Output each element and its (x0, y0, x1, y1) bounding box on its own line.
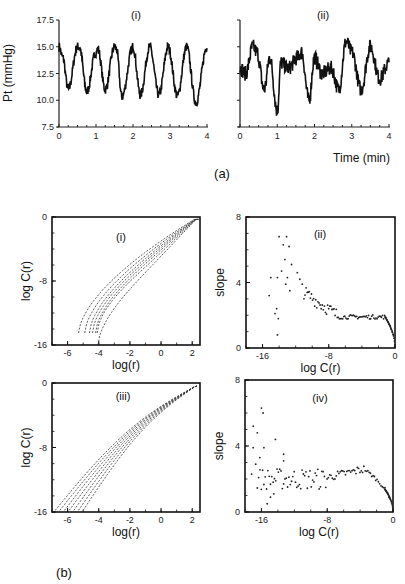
slope-point (314, 472, 316, 474)
correlation-curve (79, 386, 197, 510)
slope-point (308, 476, 310, 478)
x-axis-label: Time (min) (333, 151, 390, 165)
y-tick-label: 0 (235, 507, 240, 517)
slope-point (333, 308, 335, 310)
slope-point (283, 483, 285, 485)
slope-point (358, 468, 360, 470)
y-tick-label: -16 (34, 507, 47, 517)
correlation-curve (93, 219, 199, 333)
slope-point (327, 477, 329, 479)
slope-point (338, 473, 340, 475)
plot-title: (ii) (314, 228, 326, 240)
slope-point (334, 478, 336, 480)
slope-point (310, 297, 312, 299)
slope-point (324, 476, 326, 478)
plot-b-i: (i)-6-4-202-16-80log(r)log C(r) (19, 212, 200, 372)
x-tick-label: 2 (312, 131, 317, 141)
slope-point (362, 472, 364, 474)
slope-point (355, 473, 357, 475)
slope-point (323, 305, 325, 307)
y-tick-label: 4 (236, 278, 241, 288)
slope-point (367, 470, 369, 472)
slope-point (262, 469, 264, 471)
slope-point (293, 471, 295, 473)
slope-point (343, 471, 345, 473)
plot-title: (ii) (317, 9, 329, 21)
slope-point (316, 307, 318, 309)
y-tick-label: 15.0 (36, 42, 54, 52)
x-tick-label: 3 (167, 131, 172, 141)
slope-point (370, 472, 372, 474)
slope-point (326, 478, 328, 480)
slope-point (276, 468, 278, 470)
y-axis-label: slope (213, 268, 227, 297)
correlation-curve (96, 219, 199, 333)
slope-point (325, 312, 327, 314)
x-tick-label: 0 (159, 515, 164, 525)
slope-point (306, 487, 308, 489)
slope-point (313, 481, 315, 483)
slope-point (368, 315, 370, 317)
slope-point (267, 470, 269, 472)
x-tick-label: -8 (325, 351, 333, 361)
correlation-curve (89, 219, 198, 333)
x-axis-label: log(r) (112, 358, 140, 372)
slope-point (289, 484, 291, 486)
x-tick-label: -6 (64, 515, 72, 525)
x-tick-label: -16 (256, 351, 269, 361)
x-axis-label: log C(r) (299, 525, 339, 539)
slope-point (318, 488, 320, 490)
slope-point (305, 471, 307, 473)
slope-point (266, 488, 268, 490)
slope-point (292, 476, 294, 478)
y-ticks: 7.510.012.515.017.5 (36, 15, 59, 132)
slope-point (260, 488, 262, 490)
x-tick-label: -2 (126, 348, 134, 358)
slope-point (295, 481, 297, 483)
slope-point (383, 318, 385, 320)
slope-point (374, 476, 376, 478)
correlation-curve (97, 219, 198, 333)
slope-point (335, 475, 337, 477)
slope-point (297, 485, 299, 487)
slope-point (356, 315, 358, 317)
slope-point (372, 314, 374, 316)
slope-point (318, 302, 320, 304)
x-axis-label: log C(r) (300, 361, 340, 375)
slope-point (359, 472, 361, 474)
slope-point (315, 299, 317, 301)
correlation-curve (60, 386, 197, 510)
slope-point (258, 477, 260, 479)
x-tick-label: 4 (204, 131, 209, 141)
slope-point (330, 474, 332, 476)
correlation-curve (98, 219, 198, 345)
slope-point (325, 486, 327, 488)
plot-title: (i) (131, 9, 141, 21)
slope-point (381, 316, 383, 318)
y-axis-label: log C(r) (19, 261, 33, 301)
slope-point (328, 308, 330, 310)
slope-point (300, 488, 302, 490)
slope-point (376, 318, 378, 320)
y-tick-label: -8 (39, 443, 47, 453)
plot-a-ii: (ii) 01234 Time (min) (237, 9, 392, 165)
y-tick-label: 4 (235, 441, 240, 451)
correlation-curve (79, 219, 199, 333)
slope-point (259, 469, 261, 471)
y-tick-label: 8 (236, 212, 241, 222)
slope-point (354, 470, 356, 472)
correlation-curve (55, 386, 197, 510)
slope-point (377, 481, 379, 483)
slope-point (312, 479, 314, 481)
slope-point (312, 299, 314, 301)
pressure-trace (240, 38, 389, 116)
plot-b-iii: (iii)-6-4-202-16-80log(r)log C(r) (19, 378, 200, 539)
slope-point (326, 313, 328, 315)
x-tick-label: -8 (323, 515, 331, 525)
slope-point (319, 304, 321, 306)
slope-point (322, 309, 324, 311)
slope-point (287, 486, 289, 488)
y-tick-label: 12.5 (36, 69, 54, 79)
slope-point (313, 298, 315, 300)
slope-point (376, 478, 378, 480)
